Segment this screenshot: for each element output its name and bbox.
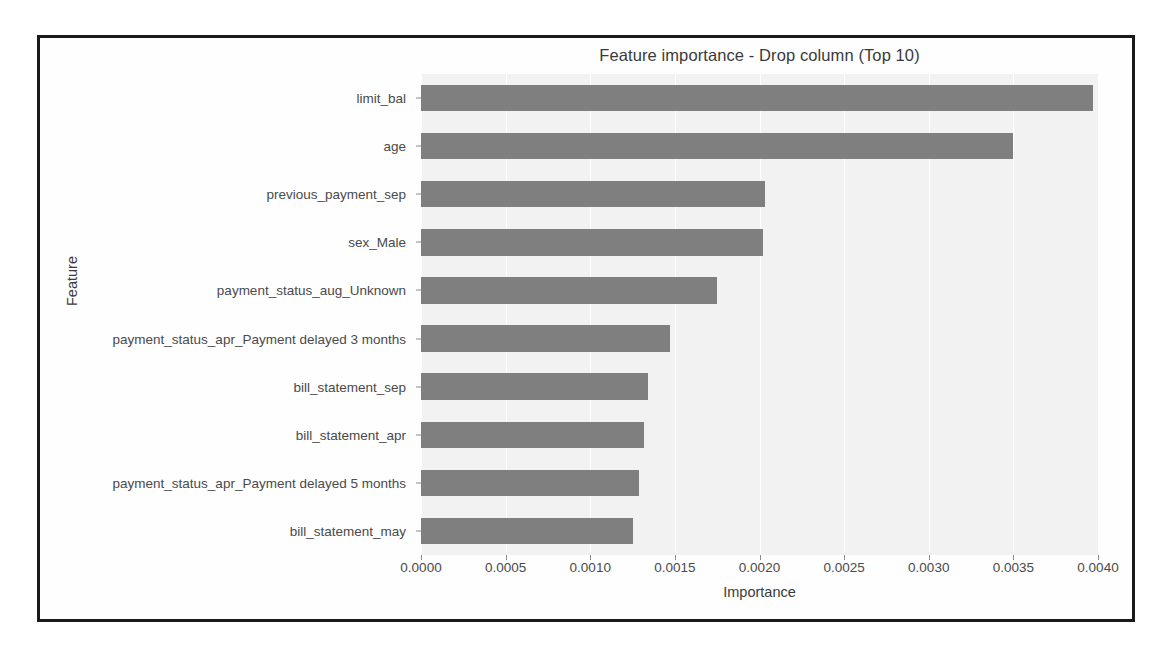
x-tick-mark-4 xyxy=(760,555,761,560)
y-tick-label-6: bill_statement_sep xyxy=(293,379,406,394)
matplotlib-figure: Feature importance - Drop column (Top 10… xyxy=(40,38,1132,619)
x-tick-label-1: 0.0005 xyxy=(485,560,526,575)
bar-row[interactable] xyxy=(421,422,1098,448)
bar-previous-payment-sep[interactable] xyxy=(421,181,765,207)
y-axis-label: Feature xyxy=(64,221,80,341)
x-tick-mark-2 xyxy=(590,555,591,560)
x-tick-mark-8 xyxy=(1098,555,1099,560)
bar-row[interactable] xyxy=(421,373,1098,399)
bar-payment-status-aug-unknown[interactable] xyxy=(421,277,717,303)
y-tick-label-0: limit_bal xyxy=(356,91,406,106)
y-tick-label-7: bill_statement_apr xyxy=(296,427,406,442)
x-tick-label-4: 0.0020 xyxy=(739,560,780,575)
bar-row[interactable] xyxy=(421,85,1098,111)
y-tick-mark-6 xyxy=(416,386,421,387)
bar-sex-male[interactable] xyxy=(421,229,763,255)
bar-payment-status-apr-payment-delayed-5-months[interactable] xyxy=(421,470,639,496)
bar-row[interactable] xyxy=(421,229,1098,255)
y-tick-mark-9 xyxy=(416,530,421,531)
y-tick-mark-5 xyxy=(416,338,421,339)
y-tick-mark-2 xyxy=(416,194,421,195)
y-tick-label-2: previous_payment_sep xyxy=(266,187,406,202)
x-tick-label-7: 0.0035 xyxy=(993,560,1034,575)
y-tick-mark-3 xyxy=(416,242,421,243)
bar-age[interactable] xyxy=(421,133,1013,159)
x-tick-label-3: 0.0015 xyxy=(654,560,695,575)
figure-frame: Feature importance - Drop column (Top 10… xyxy=(37,35,1135,622)
x-tick-mark-5 xyxy=(844,555,845,560)
bar-row[interactable] xyxy=(421,277,1098,303)
x-tick-mark-1 xyxy=(506,555,507,560)
x-tick-mark-7 xyxy=(1013,555,1014,560)
x-tick-mark-3 xyxy=(675,555,676,560)
y-tick-mark-8 xyxy=(416,482,421,483)
bar-row[interactable] xyxy=(421,518,1098,544)
bar-bill-statement-apr[interactable] xyxy=(421,422,644,448)
x-tick-label-5: 0.0025 xyxy=(823,560,864,575)
bar-row[interactable] xyxy=(421,470,1098,496)
bar-row[interactable] xyxy=(421,181,1098,207)
x-tick-label-8: 0.0040 xyxy=(1077,560,1118,575)
x-tick-mark-0 xyxy=(421,555,422,560)
bar-bill-statement-may[interactable] xyxy=(421,518,633,544)
y-tick-mark-7 xyxy=(416,434,421,435)
bar-bill-statement-sep[interactable] xyxy=(421,373,648,399)
y-tick-mark-1 xyxy=(416,146,421,147)
x-axis-label: Importance xyxy=(421,584,1098,600)
y-tick-label-4: payment_status_aug_Unknown xyxy=(217,283,406,298)
bar-row[interactable] xyxy=(421,325,1098,351)
x-tick-label-6: 0.0030 xyxy=(908,560,949,575)
plot-area xyxy=(421,74,1098,555)
bar-row[interactable] xyxy=(421,133,1098,159)
x-tick-label-0: 0.0000 xyxy=(400,560,441,575)
chart-title: Feature importance - Drop column (Top 10… xyxy=(421,46,1098,65)
y-tick-label-1: age xyxy=(383,139,406,154)
screenshot-page: Feature importance - Drop column (Top 10… xyxy=(0,0,1168,656)
bar-payment-status-apr-payment-delayed-3-months[interactable] xyxy=(421,325,670,351)
y-tick-label-5: payment_status_apr_Payment delayed 3 mon… xyxy=(113,331,406,346)
y-tick-mark-4 xyxy=(416,290,421,291)
gridline-8 xyxy=(1098,74,1099,555)
y-tick-label-8: payment_status_apr_Payment delayed 5 mon… xyxy=(113,475,406,490)
y-tick-mark-0 xyxy=(416,98,421,99)
x-tick-mark-6 xyxy=(929,555,930,560)
y-tick-label-9: bill_statement_may xyxy=(290,523,406,538)
x-tick-label-2: 0.0010 xyxy=(570,560,611,575)
bar-limit-bal[interactable] xyxy=(421,85,1093,111)
y-tick-label-3: sex_Male xyxy=(348,235,406,250)
